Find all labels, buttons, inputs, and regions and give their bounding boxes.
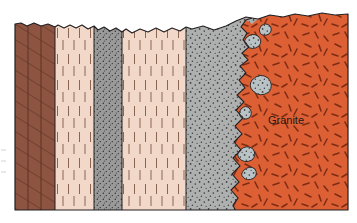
granite-label: Granite <box>268 114 304 126</box>
xenolith-6 <box>259 24 271 35</box>
siltstone-unit <box>94 0 122 223</box>
cross-section-canvas: Granite <box>0 0 357 223</box>
left-margin-marks <box>1 150 6 172</box>
stratigraphic-units <box>15 0 355 223</box>
xenolith-2 <box>250 75 271 94</box>
shale-unit <box>15 0 55 223</box>
xenolith-3 <box>239 107 251 120</box>
xenolith-1 <box>245 34 261 48</box>
geologic-cross-section-figure: Granite <box>0 0 357 223</box>
sandstone-unit-1 <box>55 0 94 223</box>
